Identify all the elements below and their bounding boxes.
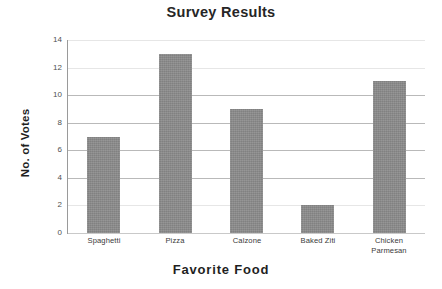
x-tick-label-line: Chicken — [375, 236, 403, 245]
bar-baked-ziti[interactable] — [301, 205, 334, 233]
chart-title: Survey Results — [0, 4, 442, 20]
x-tick-label-line: Calzone — [233, 236, 262, 245]
bar-chart: Survey Results No. of Votes 02468101214 … — [0, 0, 442, 289]
y-tick-label-8: 8 — [40, 119, 62, 127]
x-tick-label-line: Baked Ziti — [301, 236, 336, 245]
y-axis-title-text: No. of Votes — [19, 109, 31, 178]
plot-area — [68, 40, 425, 233]
x-tick-label-chicken-parmesan: ChickenParmesan — [350, 236, 428, 257]
gridline-0 — [68, 233, 425, 234]
x-tick-label-line: Spaghetti — [88, 236, 121, 245]
x-tick-label-line: Parmesan — [350, 246, 428, 256]
bar-calzone[interactable] — [230, 109, 263, 233]
gridline-14 — [68, 40, 425, 41]
x-tick-label-line: Pizza — [165, 236, 184, 245]
bar-chicken-parmesan[interactable] — [373, 81, 406, 233]
y-tick-label-14: 14 — [40, 36, 62, 44]
y-tick-label-4: 4 — [40, 174, 62, 182]
y-tick-label-10: 10 — [40, 91, 62, 99]
bar-spaghetti[interactable] — [87, 137, 120, 234]
y-tick-label-0: 0 — [40, 229, 62, 237]
x-tick-label-pizza: Pizza — [136, 236, 214, 246]
gridline-10 — [68, 95, 425, 96]
x-tick-label-spaghetti: Spaghetti — [65, 236, 143, 246]
bar-pizza[interactable] — [159, 54, 192, 233]
x-axis-title: Favorite Food — [0, 262, 442, 277]
x-tick-label-baked-ziti: Baked Ziti — [279, 236, 357, 246]
x-tick-label-calzone: Calzone — [208, 236, 286, 246]
gridline-12 — [68, 68, 425, 69]
y-tick-label-6: 6 — [40, 146, 62, 154]
y-tick-label-12: 12 — [40, 64, 62, 72]
y-axis-title: No. of Votes — [14, 88, 36, 198]
y-tick-label-2: 2 — [40, 201, 62, 209]
